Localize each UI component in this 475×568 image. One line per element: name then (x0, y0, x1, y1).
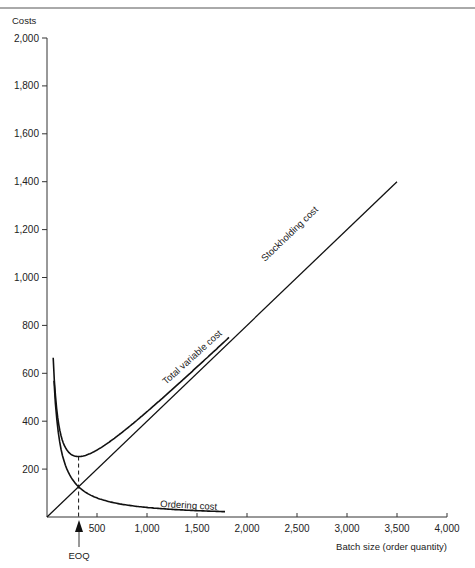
x-tick-label: 500 (89, 523, 106, 534)
eoq-chart: 2004006008001,0001,2001,4001,6001,8002,0… (0, 0, 475, 568)
y-tick-label: 1,800 (14, 80, 39, 91)
ordering-cost-curve (54, 381, 225, 512)
x-tick-label: 1,000 (134, 523, 159, 534)
eoq-label: EOQ (68, 550, 89, 561)
total-variable-cost-curve (53, 337, 229, 456)
y-tick-label: 2,000 (14, 33, 39, 44)
x-tick-label: 2,000 (234, 523, 259, 534)
eoq-arrow-icon (75, 520, 83, 547)
y-tick-label: 1,200 (14, 224, 39, 235)
y-axis-title: Costs (12, 15, 37, 26)
x-axis-title: Batch size (order quantity) (336, 541, 447, 552)
x-tick-label: 2,500 (284, 523, 309, 534)
y-axis-ticks: 2004006008001,0001,2001,4001,6001,8002,0… (14, 33, 47, 475)
y-tick-label: 1,000 (14, 272, 39, 283)
y-tick-label: 600 (22, 368, 39, 379)
series-group (47, 182, 397, 517)
x-tick-label: 1,500 (184, 523, 209, 534)
x-tick-label: 3,500 (384, 523, 409, 534)
y-tick-label: 800 (22, 320, 39, 331)
x-tick-label: 3,000 (334, 523, 359, 534)
y-tick-label: 1,600 (14, 128, 39, 139)
y-tick-label: 200 (22, 464, 39, 475)
chart-canvas: 2004006008001,0001,2001,4001,6001,8002,0… (0, 0, 475, 568)
x-axis-ticks: 5001,0001,5002,0002,5003,0003,5004,000 (89, 513, 460, 534)
stockholding-cost-label: Stockholding cost (259, 204, 320, 264)
y-tick-label: 1,400 (14, 176, 39, 187)
stockholding-cost-line (47, 182, 397, 517)
x-tick-label: 4,000 (434, 523, 459, 534)
y-tick-label: 400 (22, 416, 39, 427)
